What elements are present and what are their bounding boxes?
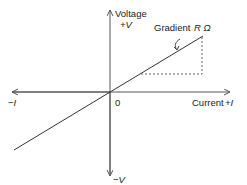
iv-diagram: Voltage +V −V −I 0 Current +I Gradient R…: [0, 0, 247, 185]
origin-label: 0: [115, 97, 120, 108]
gradient-symbol: R Ω: [194, 22, 211, 33]
y-axis-negative-label: −V: [113, 174, 127, 185]
iv-line: [14, 36, 203, 150]
y-axis-label: Voltage: [115, 8, 147, 19]
y-axis-positive-label: +V: [120, 19, 134, 30]
gradient-label: Gradient: [154, 22, 191, 33]
x-axis-label: Current: [192, 97, 224, 108]
x-axis-negative-label: −I: [8, 97, 17, 108]
x-axis-positive-label: +I: [225, 97, 234, 108]
